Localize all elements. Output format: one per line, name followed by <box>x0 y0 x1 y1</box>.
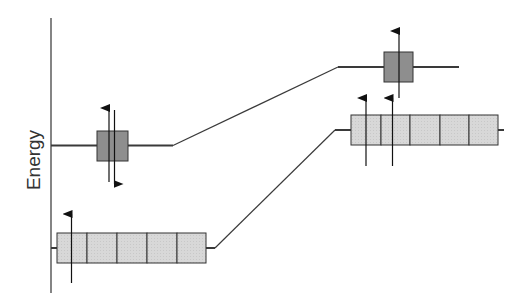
connector-upper <box>173 67 338 146</box>
level-left-lower <box>51 214 215 283</box>
orbital-box <box>97 131 128 161</box>
orbital-box <box>381 115 410 145</box>
level-right-lower <box>335 98 504 166</box>
orbital-box <box>147 233 177 263</box>
orbital-box <box>177 233 206 263</box>
level-left-upper <box>51 108 173 184</box>
orbital-box <box>410 115 440 145</box>
connector-lower <box>215 130 335 248</box>
orbital-box <box>87 233 117 263</box>
level-right-upper <box>338 31 459 98</box>
energy-level-diagram: Energy <box>0 0 529 306</box>
orbital-box <box>440 115 469 145</box>
orbital-box <box>117 233 147 263</box>
energy-axis-label: Energy <box>23 129 44 190</box>
orbital-box <box>469 115 498 145</box>
